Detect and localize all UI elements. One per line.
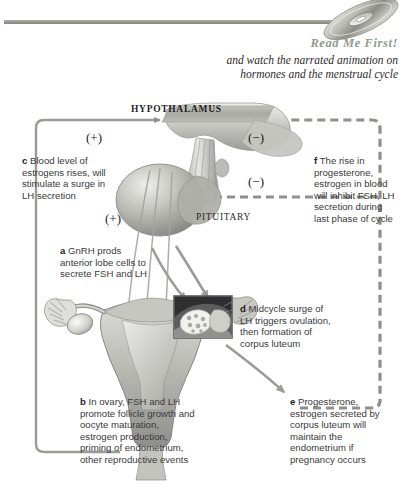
step-note-f: f The rise in progesterone, estrogen in … [314,155,396,225]
step-letter-e: e [290,396,295,407]
step-text-f: The rise in progesterone, estrogen in bl… [314,155,395,224]
minus-sign-mid: (−) [248,174,264,190]
step-text-b: In ovary, FSH and LH promote follicle gr… [80,396,195,465]
step-note-c: c Blood level of estrogens rises, will s… [22,155,108,201]
plus-sign-top: (+) [86,130,102,146]
corpus-luteum-to-step-e-arrow [226,345,284,392]
step-note-e: e Progesterone, estrogen secreted by cor… [290,396,394,466]
step-letter-d: d [240,303,246,314]
minus-sign-top: (−) [248,130,264,146]
step-text-a: GnRH prods anterior lobe cells to secret… [60,245,147,279]
pituitary-to-ovary-arrows [152,246,208,300]
step-text-e: Progesterone, estrogen secreted by corpu… [290,396,380,465]
ovary-follicle-inset [174,296,232,338]
hypothalamus-pituitary-anatomy [116,103,302,312]
plus-sign-bottom: (+) [105,211,121,227]
diagram-page: Read Me First! and watch the narrated an… [0,0,404,500]
step-note-d: d Midcycle surge of LH triggers ovulatio… [240,303,332,349]
step-text-c: Blood level of estrogens rises, will sti… [22,155,106,201]
step-letter-c: c [22,155,27,166]
pituitary-label: PITUITARY [196,212,251,222]
step-note-a: a GnRH prods anterior lobe cells to secr… [60,245,152,280]
step-text-d: Midcycle surge of LH triggers ovulation,… [240,303,331,349]
step-letter-f: f [314,155,317,166]
step-letter-b: b [80,396,86,407]
step-note-b: b In ovary, FSH and LH promote follicle … [80,396,198,466]
step-letter-a: a [60,245,65,256]
hypothalamus-label: HYPOTHALAMUS [131,104,222,114]
